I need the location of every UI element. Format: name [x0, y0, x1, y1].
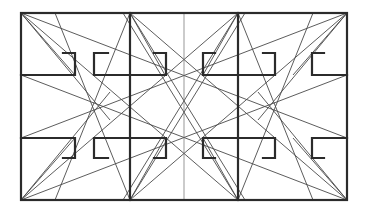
bracket-upper-1: [21, 53, 75, 75]
ray-d2t-3: [203, 13, 238, 75]
geometric-diagram: [0, 0, 366, 216]
ray-tr-4: [293, 13, 347, 75]
bracket-upper-5: [238, 53, 275, 75]
ray-bl-4: [21, 138, 75, 200]
bracket-upper-3: [130, 53, 166, 75]
bracket-upper-4: [203, 53, 238, 75]
ray-tl-4: [21, 13, 75, 75]
ray-d2b-3: [203, 138, 238, 200]
ray-br-1: [258, 92, 347, 200]
bracket-lower-1: [21, 138, 75, 158]
bracket-lower-3: [130, 138, 166, 158]
bracket-lower-6: [312, 138, 347, 158]
ray-br-4: [293, 138, 347, 200]
bracket-upper-2: [94, 53, 130, 75]
diagonal-rays: [21, 13, 347, 200]
ray-d1b-3: [130, 138, 165, 200]
bracket-upper-6: [312, 53, 347, 75]
ray-d1t-3: [130, 13, 165, 75]
ray-bl-1: [21, 92, 110, 200]
